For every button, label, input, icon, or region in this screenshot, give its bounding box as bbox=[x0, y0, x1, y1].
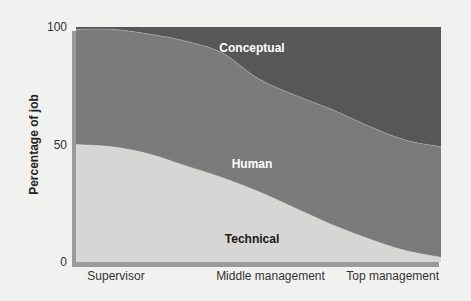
x-categories-group: SupervisorMiddle managementTop managemen… bbox=[87, 269, 439, 283]
y-tick-label: 100 bbox=[47, 20, 67, 34]
area-label-human: Human bbox=[232, 157, 273, 171]
y-tick-label: 50 bbox=[54, 138, 68, 152]
y-axis-line bbox=[72, 31, 76, 267]
areas-group bbox=[76, 27, 441, 262]
y-tick-label: 0 bbox=[60, 255, 67, 269]
x-category-label: Middle management bbox=[216, 269, 325, 283]
x-category-label: Top management bbox=[346, 269, 439, 283]
y-axis-label: Percentage of job bbox=[27, 94, 41, 195]
x-category-label: Supervisor bbox=[87, 269, 144, 283]
area-label-technical: Technical bbox=[225, 232, 279, 246]
x-axis-line bbox=[72, 262, 439, 267]
stacked-area-chart: 050100 SupervisorMiddle managementTop ma… bbox=[0, 0, 471, 301]
area-label-conceptual: Conceptual bbox=[219, 41, 284, 55]
